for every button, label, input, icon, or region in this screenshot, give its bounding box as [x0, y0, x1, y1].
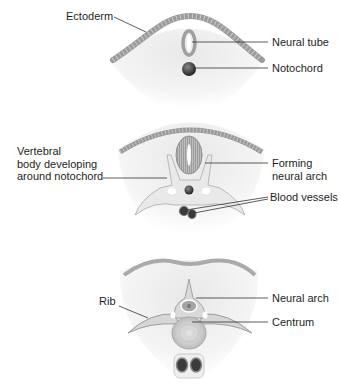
label-ectoderm: Ectoderm	[66, 10, 113, 23]
panel-stage-2	[103, 123, 268, 241]
label-vertebral-body-line3: around notochord	[17, 170, 103, 183]
blood-vessel-left	[180, 207, 189, 216]
label-vertebral-body-line1: Vertebral	[17, 145, 103, 158]
notochord-remnant	[185, 186, 194, 195]
leader-ectoderm	[114, 17, 146, 32]
label-vertebral-body-line2: body developing	[17, 158, 103, 171]
label-forming-neural-arch-line2: neural arch	[272, 170, 327, 183]
notochord	[182, 62, 196, 76]
label-centrum: Centrum	[272, 316, 314, 329]
label-forming-neural-arch: Forming neural arch	[272, 157, 327, 182]
panel-stage-3	[119, 260, 268, 385]
label-neural-arch: Neural arch	[272, 292, 329, 305]
label-neural-tube: Neural tube	[272, 36, 329, 49]
panel-stage-1	[110, 16, 268, 112]
blood-vessel-right	[188, 210, 196, 219]
label-vertebral-body: Vertebral body developing around notocho…	[17, 145, 103, 183]
aorta-left	[177, 358, 188, 372]
label-notochord: Notochord	[272, 62, 323, 75]
label-forming-neural-arch-line1: Forming	[272, 157, 327, 170]
label-blood-vessels: Blood vessels	[270, 191, 338, 204]
label-rib: Rib	[99, 295, 116, 308]
aorta-right	[191, 358, 202, 372]
